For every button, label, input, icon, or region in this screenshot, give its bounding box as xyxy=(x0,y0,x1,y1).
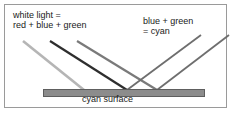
green-reflected-ray xyxy=(157,35,229,90)
incoming-light-label: white light = red + blue + green xyxy=(13,10,87,30)
surface-label: cyan surface xyxy=(82,94,133,104)
outgoing-light-label: blue + green = cyan xyxy=(143,16,193,36)
red-ray xyxy=(23,41,84,90)
blue-reflected-ray xyxy=(127,35,201,90)
diagram-screenshot: white light = red + blue + green blue + … xyxy=(0,0,233,113)
